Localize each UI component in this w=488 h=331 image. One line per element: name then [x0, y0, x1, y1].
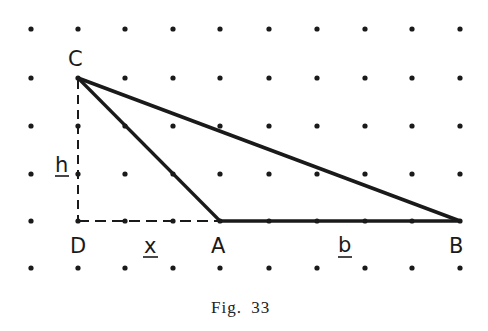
grid-dot	[409, 265, 414, 270]
grid-dot	[314, 75, 319, 80]
dot-grid	[28, 26, 462, 270]
measure-label-b: b	[338, 233, 351, 257]
grid-dot	[314, 26, 319, 31]
grid-dot	[457, 75, 462, 80]
grid-dot	[409, 75, 414, 80]
grid-dot	[362, 171, 367, 176]
grid-dot	[266, 171, 271, 176]
grid-dot	[266, 26, 271, 31]
grid-dot	[28, 171, 33, 176]
vertex-label-C: C	[68, 47, 83, 71]
grid-dot	[457, 26, 462, 31]
caption-number: 33	[251, 298, 270, 317]
grid-dot	[217, 265, 222, 270]
grid-dot	[362, 123, 367, 128]
grid-dot	[122, 218, 127, 223]
grid-dot	[217, 171, 222, 176]
grid-dot	[409, 171, 414, 176]
grid-dot	[75, 26, 80, 31]
grid-dot	[457, 171, 462, 176]
grid-dot	[28, 123, 33, 128]
vertex-label-D: D	[70, 234, 86, 258]
measure-label-x: x	[144, 234, 156, 258]
grid-dot	[170, 75, 175, 80]
grid-dot	[122, 75, 127, 80]
grid-dot	[266, 123, 271, 128]
side-CA	[78, 78, 220, 221]
grid-dot	[122, 265, 127, 270]
grid-dot	[217, 123, 222, 128]
grid-dot	[362, 265, 367, 270]
grid-dot	[457, 123, 462, 128]
measure-label-h: h	[55, 153, 68, 177]
triangle-figure: C D A B h x b Fig. 33	[0, 0, 488, 331]
grid-dot	[409, 123, 414, 128]
grid-dot	[362, 26, 367, 31]
figure-caption: Fig. 33	[211, 298, 270, 317]
grid-dot	[28, 26, 33, 31]
grid-dot	[457, 265, 462, 270]
vertex-label-B: B	[449, 234, 463, 258]
grid-dot	[409, 26, 414, 31]
side-CB	[78, 78, 460, 221]
caption-prefix: Fig.	[211, 298, 242, 317]
grid-dot	[217, 26, 222, 31]
grid-dot	[122, 171, 127, 176]
grid-dot	[75, 265, 80, 270]
grid-dot	[28, 218, 33, 223]
grid-dot	[314, 123, 319, 128]
grid-dot	[314, 171, 319, 176]
grid-dot	[362, 75, 367, 80]
grid-dot	[170, 123, 175, 128]
grid-dot	[266, 75, 271, 80]
grid-dot	[170, 26, 175, 31]
grid-dot	[122, 26, 127, 31]
vertex-label-A: A	[211, 234, 226, 258]
grid-dot	[170, 265, 175, 270]
grid-dot	[266, 265, 271, 270]
grid-dot	[28, 75, 33, 80]
grid-dot	[217, 75, 222, 80]
grid-dot	[28, 265, 33, 270]
grid-dot	[314, 265, 319, 270]
